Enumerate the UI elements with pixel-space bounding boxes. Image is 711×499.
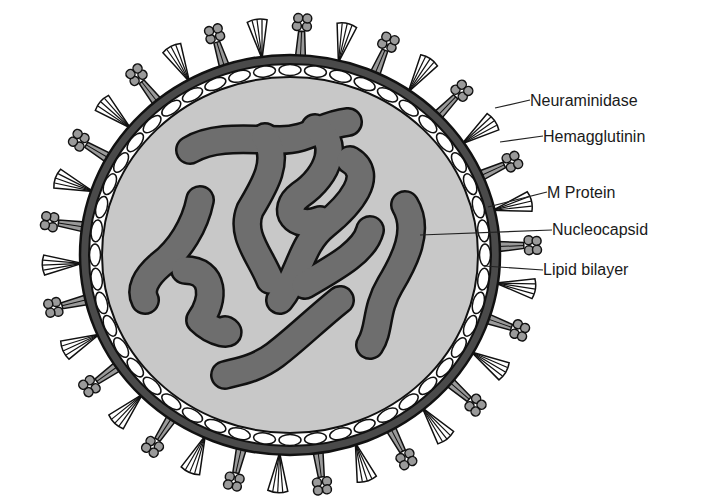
label-m-protein: M Protein (547, 184, 615, 202)
label-nucleocapsid: Nucleocapsid (552, 221, 648, 239)
neuraminidase-spike-icon (291, 13, 312, 57)
neuraminidase-spike-icon (309, 450, 333, 496)
lipid-bead (90, 244, 101, 266)
hemagglutinin-spike-icon (247, 18, 272, 60)
label-hemagglutinin: Hemagglutinin (543, 128, 645, 146)
hemagglutinin-spike-icon (42, 253, 83, 275)
leader-neuraminidase (495, 100, 530, 108)
label-neuraminidase: Neuraminidase (530, 92, 638, 110)
label-lipid-bilayer: Lipid bilayer (543, 261, 628, 279)
neuraminidase-spike-icon (40, 211, 86, 236)
neuraminidase-spike-icon (223, 445, 251, 492)
hemagglutinin-spike-icon (494, 273, 537, 299)
neuraminidase-spike-icon (43, 290, 90, 319)
lipid-bead (480, 244, 491, 266)
hemagglutinin-spike-icon (268, 452, 290, 493)
leader-hemagglutinin (500, 136, 543, 142)
influenza-virus-diagram (0, 0, 711, 499)
lipid-bead (279, 65, 301, 76)
neuraminidase-spike-icon (497, 235, 541, 256)
lipid-bead (279, 435, 301, 446)
